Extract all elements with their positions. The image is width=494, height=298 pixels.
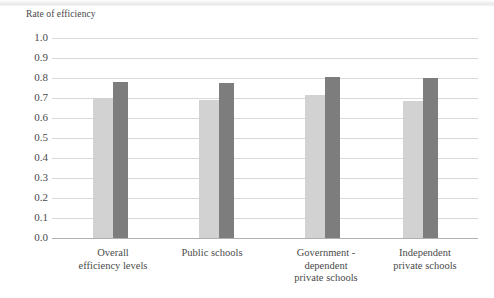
bar-dark-4 bbox=[423, 78, 438, 238]
y-axis-tick-label: 0.3 bbox=[14, 172, 48, 183]
y-axis-tick-label: 0.4 bbox=[14, 152, 48, 163]
y-axis-tick-label: 0.7 bbox=[14, 92, 48, 103]
y-axis-tick-label: 0.2 bbox=[14, 192, 48, 203]
category-label-line: private schools bbox=[350, 260, 494, 273]
y-axis-tick-label: 0.6 bbox=[14, 112, 48, 123]
bar-light-3 bbox=[305, 95, 326, 238]
category-label-line: efficiency levels bbox=[38, 260, 188, 273]
bar-dark-3 bbox=[325, 77, 340, 238]
y-axis-tick-label: 0.5 bbox=[14, 132, 48, 143]
y-axis-tick-label: 0.1 bbox=[14, 212, 48, 223]
gridline bbox=[52, 58, 478, 59]
plot-area: 1.00.90.80.70.60.50.40.30.20.10.0Overall… bbox=[0, 0, 494, 298]
gridline bbox=[52, 38, 478, 39]
bar-light-4 bbox=[403, 101, 424, 238]
bar-light-2 bbox=[199, 100, 220, 238]
bar-light-1 bbox=[93, 98, 114, 238]
gridline bbox=[52, 78, 478, 79]
y-axis-tick-label: 0.9 bbox=[14, 52, 48, 63]
y-axis-tick-label: 1.0 bbox=[14, 32, 48, 43]
y-axis-tick-label: 0.0 bbox=[14, 232, 48, 243]
bar-chart: Rate of efficiency 1.00.90.80.70.60.50.4… bbox=[0, 0, 494, 298]
bar-dark-2 bbox=[219, 83, 234, 238]
bar-dark-1 bbox=[113, 82, 128, 238]
x-axis-baseline bbox=[52, 238, 478, 239]
x-axis-category-label: Independentprivate schools bbox=[350, 247, 494, 272]
category-label-line: private schools bbox=[251, 272, 401, 285]
y-axis-tick-label: 0.8 bbox=[14, 72, 48, 83]
category-label-line: Independent bbox=[350, 247, 494, 260]
